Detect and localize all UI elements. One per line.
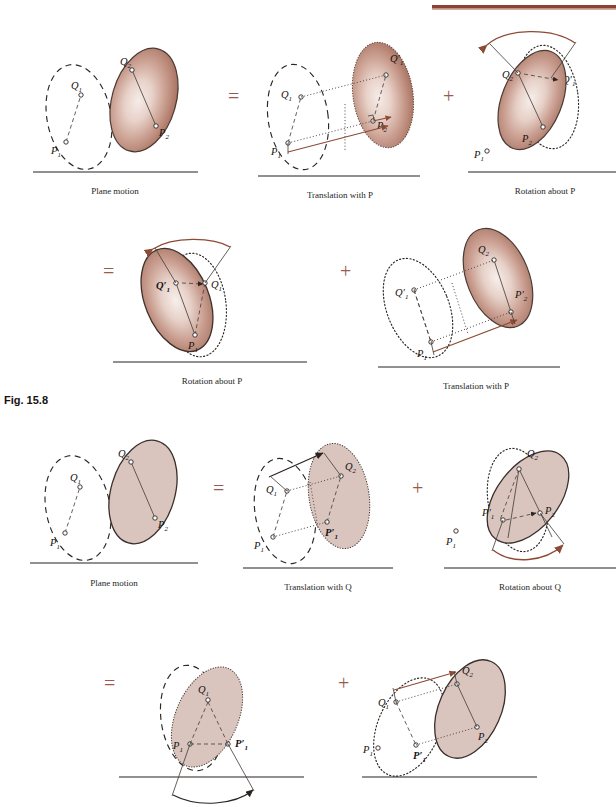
panel-rotation-q-2: Q1 P1 P′1 <box>119 656 304 803</box>
label-P1: P1 <box>270 146 281 160</box>
label-P1: P1 <box>473 149 484 163</box>
panel-translation-p-2: Q′1 P1 Q2 P′2 Translation with P <box>370 218 560 391</box>
panel-plane-motion-p: Q1 P1 Q2 P2 Plane motion <box>33 40 198 196</box>
body-final <box>99 40 190 160</box>
rotation-arc <box>173 790 253 803</box>
point-Q2 <box>129 460 133 464</box>
panel-plane-motion-q: Q1 P1 Q2 P2 Plane motion <box>30 432 198 588</box>
operator-equals-4: = <box>104 672 115 694</box>
rotation-arc <box>153 239 230 249</box>
operator-equals-2: = <box>103 260 114 282</box>
segment-P1Q1 <box>65 487 80 533</box>
panel-translation-q: Q1 P1 Q2 P′1 Translation with Q <box>243 439 393 592</box>
body-outline-initial <box>37 59 120 175</box>
label-P1: P1 <box>50 145 61 159</box>
operator-plus-3: + <box>412 477 423 499</box>
body-translated <box>301 439 377 553</box>
segment-P1Q1 <box>66 95 81 142</box>
operator-plus-1: + <box>443 85 454 107</box>
point-P2 <box>541 125 545 129</box>
translation-arrow-P <box>433 320 517 352</box>
caption-translation-p: Translation with P <box>307 190 373 200</box>
panel-rotation-q: Q2 P2 P′1 P1 Rotation about Q <box>444 436 616 592</box>
point-P2 <box>153 516 157 520</box>
label-Q1: Q1 <box>70 472 81 486</box>
body-rotated <box>157 656 257 778</box>
operator-equals-1: = <box>228 85 239 107</box>
caption-translation-q: Translation with Q <box>284 582 352 592</box>
figure-15-8: Q1 P1 Q2 P2 Plane motion = Q1 P1 Q′1 P2 <box>0 0 616 807</box>
rotation-arc <box>493 545 563 560</box>
label-P1: P1 <box>253 540 264 554</box>
radius-ray-end <box>205 246 231 283</box>
panel-translation-p: Q1 P1 Q′1 P2 Translation with P <box>258 38 420 200</box>
label-Q1: Q1 <box>281 89 292 103</box>
segment-Q1-P1p <box>396 702 416 745</box>
radius-ray-end <box>228 744 254 791</box>
rotation-arc <box>487 32 575 45</box>
caption-translation-p-2: Translation with P <box>443 381 509 391</box>
operator-equals-3: = <box>213 477 224 499</box>
caption-plane-motion: Plane motion <box>91 186 139 196</box>
point-Q2 <box>517 467 521 471</box>
caption-rotation-q: Rotation about Q <box>499 582 561 592</box>
label-Q1-prime: Q′1 <box>395 287 408 301</box>
operator-plus-2: + <box>340 260 351 282</box>
guide-edge-mid <box>452 283 468 334</box>
point-P1 <box>193 333 197 337</box>
panel-rotation-p: Q′1 Q2 P2 P1 Rotation about P <box>468 32 616 196</box>
panel-translation-q-2: Q1 P′1 Q2 P2 P1 <box>360 649 537 787</box>
translation-guide-P <box>288 121 373 143</box>
label-P1: P1 <box>416 348 427 362</box>
top-rule <box>432 5 616 9</box>
caption-plane-motion-q: Plane motion <box>90 578 138 588</box>
label-P2: P2 <box>158 127 169 141</box>
point-P1 <box>454 529 458 533</box>
segment-P1Q1 <box>288 97 301 143</box>
body-outline-initial <box>36 450 119 566</box>
figure-number: Fig. 15.8 <box>4 394 48 406</box>
body-final <box>98 432 189 552</box>
caption-rotation-p-2: Rotation about P <box>182 376 243 386</box>
body-translated <box>450 218 546 338</box>
label-Q1: Q1 <box>266 484 277 498</box>
point-P1 <box>63 531 67 535</box>
operator-plus-4: + <box>338 672 349 694</box>
guide-edge-left <box>414 290 431 342</box>
label-P1: P1 <box>49 537 60 551</box>
label-P1-prime: P′1 <box>235 738 248 752</box>
point-Q1-prime <box>384 73 388 77</box>
label-P1: P1 <box>445 536 456 550</box>
label-P1-prime: P′1 <box>413 750 426 764</box>
label-Q1: Q1 <box>211 279 222 293</box>
point-Q1 <box>206 698 210 702</box>
point-P1 <box>64 140 68 144</box>
panel-rotation-p-2: Q′1 Q1 P1 Rotation about P <box>113 238 307 386</box>
caption-rotation-p: Rotation about P <box>515 186 576 196</box>
label-Q1: Q1 <box>71 80 82 94</box>
label-P2: P2 <box>157 519 168 533</box>
point-P1 <box>376 746 380 750</box>
body-translated <box>421 649 520 769</box>
label-P1: P1 <box>362 744 373 758</box>
body-rotated <box>127 238 227 362</box>
label-Q1: Q1 <box>378 697 389 711</box>
point-Q2 <box>492 258 496 262</box>
body-translated <box>346 38 420 151</box>
point-P2 <box>154 124 158 128</box>
point-P1 <box>485 149 489 153</box>
